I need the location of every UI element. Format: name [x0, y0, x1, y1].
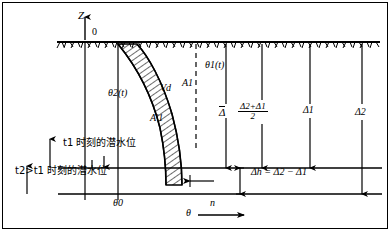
origin-label: 0 — [92, 27, 97, 37]
n-axis-label: n — [210, 198, 215, 208]
A1-prime-region-label: A′1 — [150, 113, 163, 123]
theta0-axis-label: θ0 — [113, 198, 123, 208]
water-table-label-t2: t2>t1 时刻的潜水位 — [15, 166, 107, 176]
delta-h-equation-label: Δh = Δ2 − Δ1 — [251, 167, 307, 177]
delta-bar-label: Δ — [219, 106, 225, 118]
theta2-curve-label: θ2(t) — [108, 88, 127, 98]
mean-depth-denominator: 2 — [238, 111, 268, 121]
water-table-label-t1: t1 时刻的潜水位 — [63, 138, 136, 148]
z-axis-label: Z — [78, 10, 84, 21]
figure-canvas: Z 0 θ1(t) θ2(t) Vd A1 A′1 Δ Δ2+Δ1 2 Δ1 Δ… — [0, 0, 390, 231]
delta2-label: Δ2 — [355, 107, 366, 117]
Vd-region-label: Vd — [160, 83, 171, 93]
theta-axis-label: θ — [186, 208, 191, 218]
mean-depth-numerator: Δ2+Δ1 — [238, 102, 268, 111]
mean-depth-fraction: Δ2+Δ1 2 — [238, 102, 268, 122]
A1-region-label: A1 — [182, 78, 193, 88]
diagram-vector-layer — [0, 0, 390, 231]
delta1-label: Δ1 — [303, 105, 314, 115]
theta1-curve-label: θ1(t) — [205, 60, 224, 70]
